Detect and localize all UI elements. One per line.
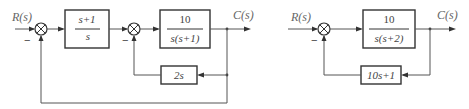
input-label-left: R(s) [11,10,32,24]
denominator: s(s+1) [171,32,200,45]
minus-sign-outer: − [24,34,30,46]
feedback-expression: 2s [174,69,184,81]
arrow-icon [132,35,137,41]
arrow-icon [197,73,204,78]
arrow-icon [401,73,408,78]
summing-junction [318,23,330,35]
diagram-left: R(s) − s+1 s − [11,8,254,103]
summing-junction-outer [35,23,47,35]
feedback-block-inner: 2s [161,66,197,84]
arrow-icon [322,35,327,41]
denominator: s [86,30,90,42]
summing-junction-inner [128,23,140,35]
arrow-icon [244,27,251,32]
minus-sign: − [311,34,317,46]
forward-block-1: s+1 s [65,10,109,48]
block-diagrams: R(s) − s+1 s − [0,0,469,109]
output-label-left: C(s) [233,8,254,22]
minus-sign-inner: − [122,34,128,46]
arrow-icon [356,27,363,32]
arrow-icon [58,27,65,32]
arrow-icon [122,27,128,32]
arrow-icon [153,27,160,32]
forward-block-2: 10 s(s+1) [160,10,210,48]
input-label-right: R(s) [290,10,311,24]
feedback-expression: 10s+1 [367,69,395,81]
numerator: 10 [384,13,396,25]
numerator: 10 [180,13,192,25]
arrow-icon [29,27,35,32]
numerator: s+1 [78,13,95,25]
output-label-right: C(s) [437,8,458,22]
feedback-block: 10s+1 [361,66,401,84]
diagram-right: R(s) − 10 s(s+2) C(s) 10s+1 [288,8,458,84]
arrow-icon [449,27,456,32]
forward-block: 10 s(s+2) [363,10,415,48]
arrow-icon [312,27,318,32]
arrow-icon [39,35,44,41]
denominator: s(s+2) [375,32,404,45]
